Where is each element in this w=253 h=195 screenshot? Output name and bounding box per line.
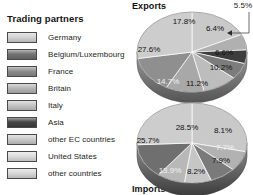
legend-item: Italy	[4, 97, 132, 114]
legend-item-label: Germany	[48, 33, 81, 42]
legend-item: Britain	[4, 80, 132, 97]
legend: Trading partners GermanyBelgium/Luxembou…	[4, 13, 132, 182]
pct-label-asia: 8.1%	[214, 126, 232, 135]
legend-item-label: Asia	[48, 118, 64, 127]
pct-label-britain: 8.2%	[187, 167, 205, 176]
legend-item: Germany	[4, 29, 132, 46]
legend-title: Trading partners	[7, 13, 132, 24]
legend-item-label: Britain	[48, 84, 71, 93]
legend-swatch-germany	[7, 32, 37, 43]
legend-items: GermanyBelgium/LuxembourgFranceBritainIt…	[4, 29, 132, 182]
legend-item: Asia	[4, 114, 132, 131]
legend-item-label: United States	[48, 152, 97, 161]
pct-label-france: 7.9%	[212, 156, 230, 165]
legend-item-label: other countries	[48, 169, 102, 178]
pie-charts-panel: Exports Imports 5.5%	[131, 0, 253, 195]
legend-item: other countries	[4, 165, 132, 182]
legend-item: other EC countries	[4, 131, 132, 148]
legend-item: France	[4, 63, 132, 80]
legend-item-label: France	[48, 67, 73, 76]
pct-label-italy: 13.9%	[159, 166, 182, 175]
legend-item: United States	[4, 148, 132, 165]
legend-swatch-britain	[7, 83, 37, 94]
legend-swatch-italy	[7, 100, 37, 111]
pct-label-germany: 25.7%	[137, 136, 160, 145]
pct-label-britain: 11.2%	[186, 79, 208, 88]
pct-label-other-ec-countries: 28.5%	[176, 123, 199, 132]
legend-swatch-asia	[7, 117, 37, 128]
legend-swatch-other-ec-countries	[7, 134, 37, 145]
pct-label-italy: 14.7%	[157, 77, 180, 86]
pct-label-france: 10.2%	[210, 63, 233, 72]
legend-swatch-france	[7, 66, 37, 77]
legend-item-label: other EC countries	[48, 135, 115, 144]
pct-label-germany: 27.6%	[138, 45, 161, 54]
legend-swatch-other-countries	[7, 168, 37, 179]
pct-label-other-ec-countries: 17.8%	[173, 17, 196, 26]
legend-item-label: Italy	[48, 101, 63, 110]
legend-item: Belgium/Luxembourg	[4, 46, 132, 63]
legend-item-label: Belgium/Luxembourg	[48, 50, 125, 59]
legend-swatch-united-states	[7, 151, 37, 162]
legend-swatch-belgium-luxembourg	[7, 49, 37, 60]
pct-label-united-states: 6.4%	[206, 24, 224, 33]
pct-label-belgium-luxembourg: 7.7%	[216, 143, 234, 152]
pie-chart-svg: 17.8%6.4%6.6%10.2%11.2%14.7%27.6%28.5%8.…	[131, 0, 253, 195]
pct-label-belgium-luxembourg: 6.6%	[215, 48, 233, 57]
